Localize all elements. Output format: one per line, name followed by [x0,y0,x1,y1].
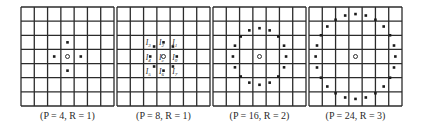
sample-point [314,55,317,58]
sample-point [374,18,377,21]
sample-point [326,85,329,88]
center-pixel-marker [354,55,358,59]
caption-p8-r1: (P = 8, R = 1) [117,110,210,121]
sample-point [239,35,242,38]
sample-point [382,25,385,28]
sample-point [365,96,368,99]
sample-point [234,44,237,47]
sample-point [283,44,286,47]
sample-point [365,14,368,17]
grid-p16-r2 [213,7,306,106]
sample-point [79,55,82,58]
grid-p24-r3 [309,7,402,106]
sample-point [53,55,56,58]
grid-p4-r1 [21,7,114,106]
sample-point [285,55,288,58]
sample-point [382,85,385,88]
neighbour-label: I7 [171,67,178,77]
sample-point [389,34,392,37]
neighbour-label: I4 [145,53,152,63]
sample-point [66,41,69,44]
neighbour-label: I3 [145,38,152,48]
sample-point [326,25,329,28]
sample-point [320,76,323,79]
neighbour-label: I6 [158,67,165,77]
caption-p24-r3: (P = 24, R = 3) [309,110,402,121]
sample-point [393,44,396,47]
panel-p16-r2 [213,7,306,106]
sample-point [153,65,156,68]
sample-point [283,66,286,69]
sample-point [153,45,156,48]
neighbour-label: I0 [171,53,178,63]
sample-point [277,75,280,78]
sample-point [316,66,319,69]
sample-point [268,29,271,32]
sample-point [232,55,235,58]
sample-point [334,92,337,95]
sample-point [389,76,392,79]
sample-point [334,18,337,21]
panel-p4-r1 [21,7,114,106]
sample-point [239,75,242,78]
sample-point [234,66,237,69]
sample-point [374,92,377,95]
sample-point [344,96,347,99]
sample-point [268,81,271,84]
neighbour-label: I1 [171,38,177,48]
neighbour-label: I5 [145,67,152,77]
center-pixel-marker [258,55,262,59]
neighbour-label: I2 [158,38,165,48]
sample-point [316,44,319,47]
sample-point [66,69,69,72]
neighbour-label: Ic [158,53,165,63]
caption-p16-r2: (P = 16, R = 2) [213,110,306,121]
grid-p8-r1: I0I1I2I3I4I5I6I7Ic [117,7,210,106]
sample-point [248,81,251,84]
sample-point [258,27,261,30]
panel-p8-r1: I0I1I2I3I4I5I6I7Ic [117,7,210,106]
sample-point [354,98,357,101]
sample-point [248,29,251,32]
center-pixel-marker [66,55,70,59]
sample-point [277,35,280,38]
panel-p24-r3 [309,7,402,106]
sample-point [320,34,323,37]
caption-p4-r1: (P = 4, R = 1) [21,110,114,121]
sample-point [258,83,261,86]
sample-point [344,14,347,17]
sample-point [393,66,396,69]
sample-point [394,55,397,58]
sample-point [354,13,357,16]
